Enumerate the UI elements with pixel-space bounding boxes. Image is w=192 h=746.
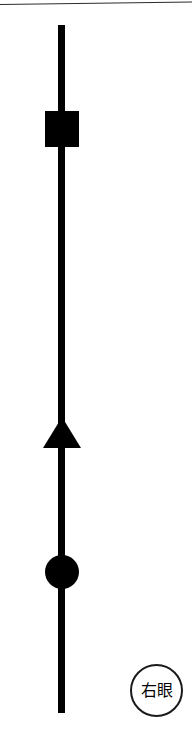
square-marker: [45, 111, 79, 147]
right-eye-badge: 右眼: [130, 664, 183, 717]
triangle-up-marker: [43, 417, 81, 448]
top-border-rule: [0, 1, 192, 5]
right-eye-badge-label: 右眼: [141, 683, 173, 699]
diagram-canvas: 右眼: [0, 0, 192, 746]
circle-marker: [45, 555, 79, 589]
